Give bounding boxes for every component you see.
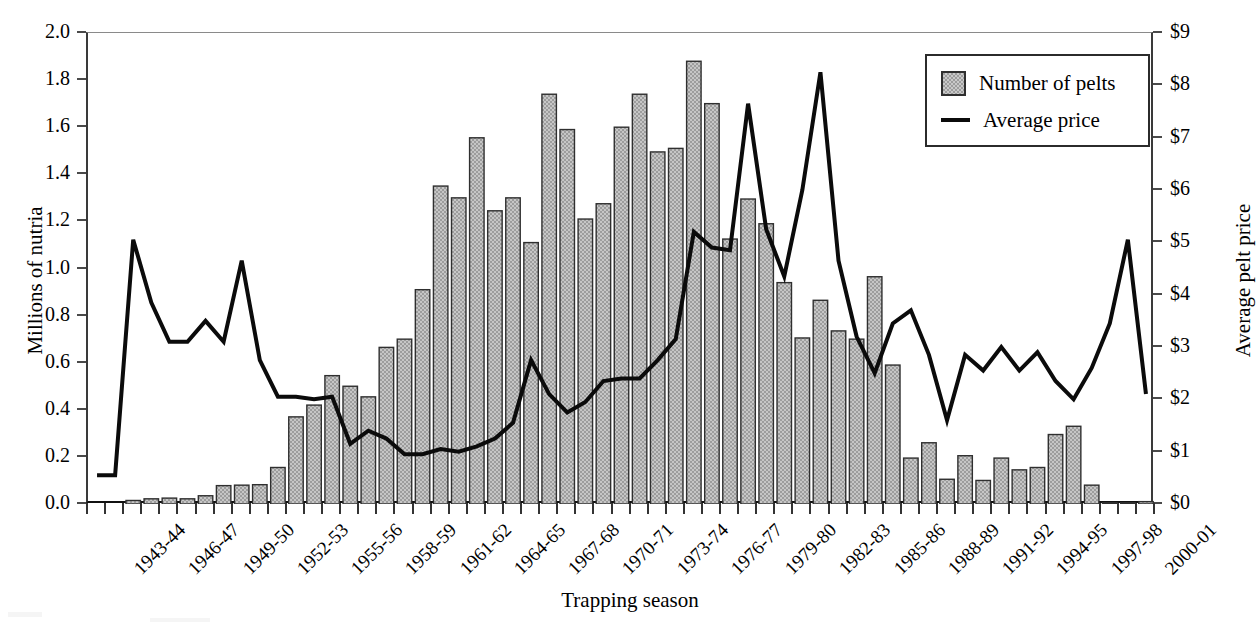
x-axis-tickmark [864, 503, 866, 514]
bar [144, 499, 158, 504]
bar [180, 499, 194, 504]
bar [795, 338, 809, 504]
legend-item-average-price: Average price [941, 105, 1100, 135]
x-axis-tickmark [755, 503, 757, 514]
bar [198, 496, 212, 504]
x-axis-tickmark [918, 503, 920, 514]
y-axis-left-tickmark [77, 172, 86, 174]
bar [1030, 468, 1044, 505]
x-axis-tickmark [140, 503, 142, 514]
y-axis-left-tickmark [77, 408, 86, 410]
legend-item-number-of-pelts: Number of pelts [941, 68, 1115, 98]
x-axis-tickmark [846, 503, 848, 514]
x-axis-tickmark [629, 503, 631, 514]
x-axis-tickmark [267, 503, 269, 514]
x-axis-tickmark [882, 503, 884, 514]
y-axis-left-tick-label: 1.4 [10, 162, 70, 182]
x-axis-tick-label: 1949-50 [238, 519, 298, 579]
x-axis-tickmark [574, 503, 576, 514]
legend-line-icon [941, 118, 970, 122]
x-axis-tickmark [249, 503, 251, 514]
y-axis-left-tickmark [77, 502, 86, 504]
x-axis-tickmark [900, 503, 902, 514]
legend-item-label: Number of pelts [979, 73, 1115, 94]
x-axis-tickmark [1135, 503, 1137, 514]
y-axis-right-tick-label: $3 [1170, 335, 1230, 355]
bar [162, 498, 176, 504]
bar [831, 331, 845, 504]
x-axis-tickmark [466, 503, 468, 514]
x-axis-tickmark [1008, 503, 1010, 514]
chart-legend: Number of pelts Average price [925, 54, 1150, 147]
bar [506, 198, 520, 504]
legend-swatch-icon [941, 71, 966, 96]
x-axis-tick-label: 1943-44 [130, 519, 190, 579]
x-axis-tickmark [990, 503, 992, 514]
bar [1048, 435, 1062, 504]
bar [452, 198, 466, 504]
x-axis-tickmark [683, 503, 685, 514]
y-axis-left-tick-label: 1.8 [10, 68, 70, 88]
x-axis-tickmark [1063, 503, 1065, 514]
x-axis-tick-label: 1946-47 [184, 519, 244, 579]
x-axis-tickmark [936, 503, 938, 514]
x-axis-tick-label: 1964-65 [509, 519, 569, 579]
x-axis-tick-label: 1970-71 [618, 519, 678, 579]
bar [361, 397, 375, 504]
x-axis-tickmark [357, 503, 359, 514]
bar [1139, 502, 1153, 504]
x-axis-tickmark [611, 503, 613, 514]
x-axis-tick-label: 1955-56 [347, 519, 407, 579]
y-axis-right-tick-label: $9 [1170, 21, 1230, 41]
bar [705, 104, 719, 504]
x-axis-tickmark [502, 503, 504, 514]
x-axis-tick-label: 1997-98 [1106, 519, 1166, 579]
x-axis-tickmark [972, 503, 974, 514]
x-axis-tickmark [231, 503, 233, 514]
y-axis-left-tickmark [77, 125, 86, 127]
x-axis-tick-label: 1982-83 [835, 519, 895, 579]
x-axis-tickmark [1153, 503, 1155, 514]
bar [397, 339, 411, 504]
bar [958, 456, 972, 504]
x-axis-tickmark [954, 503, 956, 514]
x-axis-tickmark [86, 503, 88, 514]
bar [904, 458, 918, 504]
x-axis-tickmark [339, 503, 341, 514]
x-axis-tickmark [828, 503, 830, 514]
bar [650, 152, 664, 504]
x-axis-tickmark [1081, 503, 1083, 514]
bar [234, 485, 248, 504]
x-axis-tickmark [412, 503, 414, 514]
x-axis-tickmark [321, 503, 323, 514]
y-axis-right-tick-label: $1 [1170, 440, 1230, 460]
x-axis-tickmark [809, 503, 811, 514]
x-axis-tickmark [791, 503, 793, 514]
x-axis-title: Trapping season [0, 588, 1260, 613]
x-axis-tick-label: 1958-59 [401, 519, 461, 579]
bar [723, 239, 737, 504]
bar [560, 130, 574, 504]
bar [253, 485, 267, 504]
y-axis-left-tickmark [77, 219, 86, 221]
x-axis-tick-label: 1976-77 [726, 519, 786, 579]
bar [813, 300, 827, 504]
x-axis-tickmark [104, 503, 106, 514]
bar [759, 224, 773, 504]
x-axis-tickmark [1099, 503, 1101, 514]
y-axis-right-tick-label: $7 [1170, 126, 1230, 146]
bar [994, 458, 1008, 504]
x-axis-tickmark [592, 503, 594, 514]
bar [578, 219, 592, 504]
y-axis-right-tick-label: $6 [1170, 178, 1230, 198]
x-axis-tickmark [665, 503, 667, 514]
bar [614, 127, 628, 504]
bar [632, 94, 646, 504]
x-axis-tickmark [538, 503, 540, 514]
x-axis-tickmark [122, 503, 124, 514]
y-axis-left-tickmark [77, 361, 86, 363]
x-axis-tickmark [556, 503, 558, 514]
x-axis-tickmark [719, 503, 721, 514]
y-axis-left-tick-label: 1.2 [10, 209, 70, 229]
bar [1012, 470, 1026, 504]
